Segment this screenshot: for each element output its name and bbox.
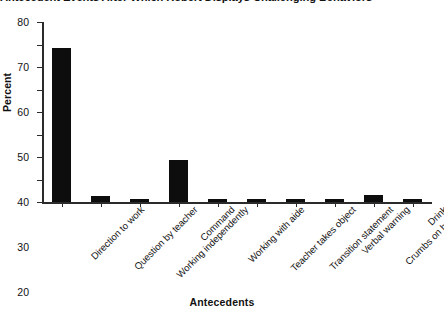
bar <box>247 199 267 202</box>
bar <box>91 196 111 202</box>
bar <box>403 199 423 202</box>
y-tick-mark: 20 <box>37 157 42 158</box>
bar <box>325 199 345 202</box>
x-tick-label: Direction to work <box>88 204 146 262</box>
x-axis-tick-labels: Direction to workQuestion by teacherWork… <box>42 204 442 294</box>
chart-title: Antecedent Events After Which Robert Dis… <box>0 0 444 4</box>
bar <box>52 48 72 202</box>
y-tick-label: 40 <box>17 196 29 208</box>
y-tick-label: 50 <box>17 151 29 163</box>
y-tick-mark: 10 <box>37 180 42 181</box>
y-tick-label: 70 <box>17 61 29 73</box>
bar <box>169 160 189 202</box>
y-tick-mark: 70 <box>37 45 42 46</box>
y-tick-mark: 80 <box>37 22 42 23</box>
y-axis-line <box>42 22 44 202</box>
y-tick-label: 30 <box>17 241 29 253</box>
y-axis-title: Percent <box>1 73 13 112</box>
bar <box>208 199 228 202</box>
y-tick-mark: 40 <box>37 112 42 113</box>
y-tick-mark: 60 <box>37 67 42 68</box>
y-tick-mark: 30 <box>37 135 42 136</box>
plot-area: 01020304050607080 <box>42 22 432 202</box>
y-tick-label: 60 <box>17 106 29 118</box>
x-axis-title: Antecedents <box>0 296 444 308</box>
y-tick-label: 80 <box>17 16 29 28</box>
bar <box>286 199 306 202</box>
bar-chart-figure: Antecedent Events After Which Robert Dis… <box>0 0 444 317</box>
bar <box>130 199 150 202</box>
y-tick-mark: 50 <box>37 90 42 91</box>
bar <box>364 195 384 202</box>
